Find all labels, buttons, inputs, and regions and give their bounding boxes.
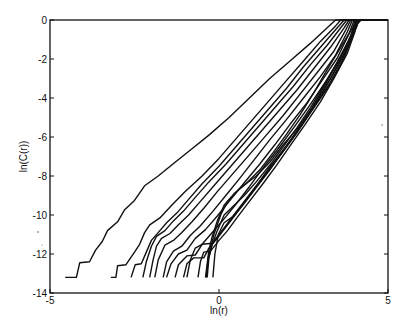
x-axis-label: ln(r)	[210, 305, 228, 316]
y-axis-label: ln(C(r))	[18, 141, 29, 173]
scan-speck	[37, 231, 39, 233]
series-line-curve-4	[143, 20, 388, 277]
series-line-curve-5	[150, 20, 388, 277]
correlation-integral-chart: 0-2-4-6-8-10-12-14-505 ln(r) ln(C(r))	[0, 0, 406, 330]
y-tick-label: -12	[33, 249, 48, 260]
y-tick-label: -8	[38, 171, 47, 182]
y-tick-label: -4	[38, 93, 47, 104]
series-line-curve-3	[131, 20, 388, 277]
y-tick-label: -2	[38, 54, 47, 65]
x-tick-label: -5	[46, 295, 55, 306]
series-line-curve-16	[206, 20, 389, 277]
y-tick-label: -6	[38, 132, 47, 143]
data-curves	[65, 20, 388, 277]
x-tick-label: 5	[385, 295, 391, 306]
y-tick-label: -10	[33, 210, 48, 221]
scan-speck	[41, 244, 42, 245]
y-tick-label: 0	[41, 15, 47, 26]
scan-speck	[381, 124, 382, 125]
